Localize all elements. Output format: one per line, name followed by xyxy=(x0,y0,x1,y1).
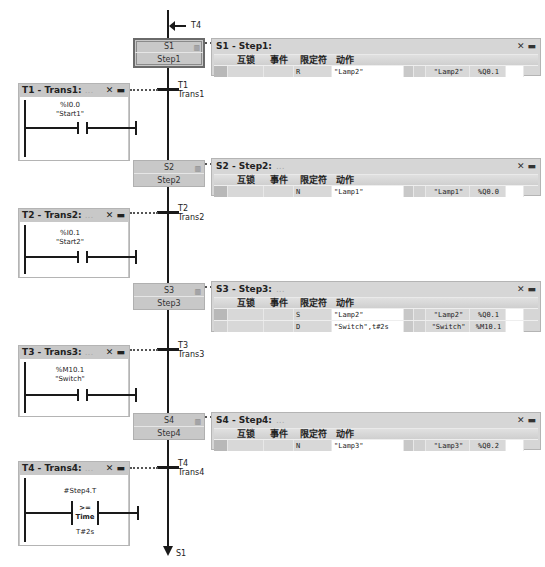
panel-comment[interactable]: ... xyxy=(85,463,94,473)
action-row[interactable]: D "Switch",t#2s "Switch" %M10.1 xyxy=(214,320,538,332)
panel-comment[interactable]: ... xyxy=(85,347,94,357)
contact-no-icon[interactable] xyxy=(77,251,79,263)
minimize-icon[interactable]: ▬ xyxy=(527,284,536,294)
col-interlock: 互锁 xyxy=(228,55,264,65)
contact-tag: "Switch" xyxy=(40,375,100,383)
step-s1[interactable]: S1▥ Step1 xyxy=(133,38,205,68)
action-row[interactable]: N "Lamp3" "Lamp3" %Q0.2 xyxy=(214,439,538,451)
minimize-icon[interactable]: ▬ xyxy=(116,347,125,357)
address-cell: %Q0.0 xyxy=(470,186,506,197)
step-number: S2 xyxy=(164,163,174,172)
grip-icon[interactable]: ▥ xyxy=(193,42,199,55)
transition-number: T3 xyxy=(178,341,188,350)
coil-end-icon xyxy=(135,388,137,402)
action-cell[interactable]: "Lamp2" xyxy=(332,66,404,77)
step-panel-s3[interactable]: S3 - Step3:... ✕▬ 互锁事件限定符动作 S "Lamp2" "L… xyxy=(211,281,541,332)
col-qualifier: 限定符 xyxy=(294,298,332,308)
close-icon[interactable]: ✕ xyxy=(517,161,525,171)
panel-comment[interactable]: ... xyxy=(276,161,285,171)
col-interlock: 互锁 xyxy=(228,298,264,308)
action-row[interactable]: S "Lamp2" "Lamp2" %Q0.1 xyxy=(214,308,538,320)
connector-dots xyxy=(130,212,158,214)
qualifier-cell[interactable]: R xyxy=(294,66,332,77)
panel-comment[interactable]: ... xyxy=(276,284,285,294)
step-panel-s2[interactable]: S2 - Step2:... ✕▬ 互锁事件限定符动作 N "Lamp1" "L… xyxy=(211,158,541,196)
qualifier-cell[interactable]: N xyxy=(294,440,332,451)
compare-operand2: T#2s xyxy=(60,528,110,536)
qualifier-cell[interactable]: S xyxy=(294,309,332,320)
minimize-icon[interactable]: ▬ xyxy=(116,85,125,95)
close-icon[interactable]: ✕ xyxy=(517,415,525,425)
compare-operand1: #Step4.T xyxy=(55,487,105,495)
panel-comment[interactable]: ... xyxy=(85,210,94,220)
step-panel-s4[interactable]: S4 - Step4:... ✕▬ 互锁事件限定符动作 N "Lamp3" "L… xyxy=(211,412,541,450)
close-icon[interactable]: ✕ xyxy=(106,463,114,473)
minimize-icon[interactable]: ▬ xyxy=(527,415,536,425)
action-row[interactable]: N "Lamp1" "Lamp1" %Q0.0 xyxy=(214,185,538,197)
minimize-icon[interactable]: ▬ xyxy=(527,161,536,171)
jump-target-label[interactable]: S1 xyxy=(176,549,186,558)
contact-no-icon[interactable] xyxy=(77,389,79,401)
compare-type[interactable]: Time xyxy=(73,513,97,521)
contact-no-icon[interactable] xyxy=(77,122,79,134)
col-interlock: 互锁 xyxy=(228,175,264,185)
transition-panel-t3[interactable]: T3 - Trans3:... ✕ ▬ %M10.1 "Switch" xyxy=(18,345,130,417)
step-s4[interactable]: S4▥ Step4 xyxy=(133,413,205,440)
action-table-header: 互锁事件限定符动作 xyxy=(214,297,538,308)
panel-title: S2 - Step2: xyxy=(216,161,272,171)
tag-cell: "Lamp1" xyxy=(426,186,470,197)
jump-source-label[interactable]: T4 xyxy=(191,21,201,30)
minimize-icon[interactable]: ▬ xyxy=(527,41,536,51)
transition-t3[interactable] xyxy=(157,348,179,351)
transition-number: T1 xyxy=(178,81,188,90)
action-row[interactable]: R "Lamp2" "Lamp2" %Q0.1 xyxy=(214,65,538,77)
step-s2[interactable]: S2▥ Step2 xyxy=(133,160,205,187)
step-panel-s1[interactable]: S1 - Step1: ✕▬ 互锁事件限定符动作 R "Lamp2" "Lamp… xyxy=(211,38,541,76)
grip-icon[interactable]: ▥ xyxy=(194,416,200,429)
wire xyxy=(86,127,136,129)
compare-operator[interactable]: >= xyxy=(73,504,97,512)
action-cell[interactable]: "Switch",t#2s xyxy=(332,321,404,332)
wire xyxy=(25,512,71,514)
grip-icon[interactable]: ▥ xyxy=(194,163,200,176)
coil-end-icon xyxy=(137,506,139,520)
transition-t1[interactable] xyxy=(157,88,179,91)
panel-comment[interactable]: ... xyxy=(276,415,285,425)
step-s3[interactable]: S3▥ Step3 xyxy=(133,283,205,310)
qualifier-cell[interactable]: D xyxy=(294,321,332,332)
action-cell[interactable]: "Lamp2" xyxy=(332,309,404,320)
action-table-header: 互锁事件限定符动作 xyxy=(214,428,538,439)
step-name: Step4 xyxy=(134,427,204,441)
transition-name: Trans1 xyxy=(178,90,204,99)
col-event: 事件 xyxy=(264,175,294,185)
transition-panel-t2[interactable]: T2 - Trans2:... ✕ ▬ %I0.1 "Start2" xyxy=(18,208,130,278)
action-cell[interactable]: "Lamp3" xyxy=(332,440,404,451)
col-qualifier: 限定符 xyxy=(294,429,332,439)
close-icon[interactable]: ✕ xyxy=(106,210,114,220)
close-icon[interactable]: ✕ xyxy=(517,284,525,294)
qualifier-cell[interactable]: N xyxy=(294,186,332,197)
panel-comment[interactable]: ... xyxy=(85,85,94,95)
grip-icon[interactable]: ▥ xyxy=(194,286,200,299)
close-icon[interactable]: ✕ xyxy=(106,85,114,95)
col-qualifier: 限定符 xyxy=(294,55,332,65)
action-cell[interactable]: "Lamp1" xyxy=(332,186,404,197)
step-name: Step1 xyxy=(135,53,203,67)
col-interlock: 互锁 xyxy=(228,429,264,439)
panel-title: T1 - Trans1: xyxy=(22,85,82,95)
sequence-chain-line xyxy=(167,10,169,550)
action-table-header: 互锁事件限定符动作 xyxy=(214,174,538,185)
transition-t4[interactable] xyxy=(157,466,179,469)
panel-title: T2 - Trans2: xyxy=(22,210,82,220)
transition-panel-t4[interactable]: T4 - Trans4:... ✕ ▬ #Step4.T >= Time T#2… xyxy=(18,461,130,546)
close-icon[interactable]: ✕ xyxy=(106,347,114,357)
transition-t2[interactable] xyxy=(157,211,179,214)
step-name: Step3 xyxy=(134,297,204,311)
wire xyxy=(97,512,138,514)
col-action: 动作 xyxy=(332,298,392,308)
close-icon[interactable]: ✕ xyxy=(517,41,525,51)
panel-title: S1 - Step1: xyxy=(216,41,272,51)
transition-panel-t1[interactable]: T1 - Trans1:... ✕ ▬ %I0.0 "Start1" xyxy=(18,83,130,161)
minimize-icon[interactable]: ▬ xyxy=(116,463,125,473)
minimize-icon[interactable]: ▬ xyxy=(116,210,125,220)
